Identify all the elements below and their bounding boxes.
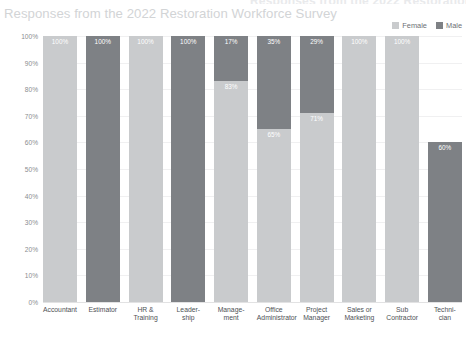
bar-value-label: 83% (214, 83, 248, 90)
x-axis-tick-label: Project Manager (300, 306, 334, 323)
bar-column[interactable]: 100% (342, 36, 376, 302)
bar-value-label: 100% (385, 38, 419, 45)
legend-swatch-icon (392, 22, 399, 29)
bar-segment-female[interactable]: 100% (385, 36, 419, 302)
x-axis-tick-label: Sales or Marketing (342, 306, 376, 323)
bar-value-label: 100% (129, 38, 163, 45)
bar-value-label: 29% (300, 38, 334, 45)
bar-segment-male[interactable]: 100% (171, 36, 205, 302)
x-axis-tick-label: Estimator (86, 306, 120, 323)
bar-segment-male[interactable]: 60% (428, 142, 462, 302)
chart-subtitle: Responses from the 2022 Restoration Work… (4, 6, 337, 21)
bar-segment-male[interactable]: 29% (300, 36, 334, 113)
legend-swatch-icon (436, 22, 443, 29)
y-axis-tick-label: 60% (25, 139, 38, 146)
legend-item-female[interactable]: Female (392, 21, 427, 30)
bar-value-label: 65% (257, 131, 291, 138)
x-axis-tick-label: HR & Training (129, 306, 163, 323)
bar-series-group: 100%100%100%100%17%83%35%65%29%71%100%10… (43, 36, 462, 302)
bar-column[interactable]: 100% (86, 36, 120, 302)
y-axis-tick-label: 30% (25, 219, 38, 226)
legend-item-male[interactable]: Male (436, 21, 462, 30)
y-axis-tick-label: 0% (28, 299, 38, 306)
bar-segment-male[interactable]: 100% (86, 36, 120, 302)
y-axis-tick-label: 50% (25, 166, 38, 173)
bar-segment-female[interactable]: 83% (214, 81, 248, 302)
y-axis-tick-label: 90% (25, 59, 38, 66)
bar-segment-female[interactable]: 100% (129, 36, 163, 302)
y-axis-tick-label: 40% (25, 192, 38, 199)
y-axis-tick-label: 100% (21, 33, 38, 40)
bar-column[interactable]: 35%65% (257, 36, 291, 302)
y-axis-tick-label: 80% (25, 86, 38, 93)
x-axis-labels: AccountantEstimatorHR & TrainingLeader- … (43, 306, 462, 323)
chart-title: Responses from the 2022 Restoration Work… (250, 0, 466, 4)
bar-column[interactable]: 100% (43, 36, 77, 302)
bar-segment-female[interactable]: 65% (257, 129, 291, 302)
bar-value-label: 17% (214, 38, 248, 45)
bar-column[interactable]: 29%71% (300, 36, 334, 302)
x-axis-tick-label: Accountant (43, 306, 77, 323)
bar-segment-female[interactable]: 100% (342, 36, 376, 302)
bar-column[interactable]: 60% (428, 36, 462, 302)
y-axis-tick-label: 70% (25, 112, 38, 119)
bar-value-label: 35% (257, 38, 291, 45)
x-axis-tick-label: Leader- ship (171, 306, 205, 323)
y-axis-tick-label: 20% (25, 245, 38, 252)
bar-column[interactable]: 100% (171, 36, 205, 302)
x-axis-tick-label: Sub Contractor (385, 306, 419, 323)
bar-column[interactable]: 100% (385, 36, 419, 302)
bar-segment-female[interactable]: 100% (43, 36, 77, 302)
x-axis-tick-label: Office Administrator (257, 306, 291, 323)
bar-value-label: 60% (428, 144, 462, 151)
bar-column[interactable]: 17%83% (214, 36, 248, 302)
chart-container: Responses from the 2022 Restoration Work… (0, 0, 466, 341)
y-axis-tick-label: 10% (25, 272, 38, 279)
plot-area: 100%90%80%70%60%50%40%30%20%10%0% 100%10… (43, 36, 462, 302)
bar-segment-female[interactable]: 71% (300, 113, 334, 302)
legend-label: Male (446, 21, 462, 30)
legend-label: Female (402, 21, 427, 30)
gridline: 0% (43, 302, 462, 303)
bar-value-label: 100% (86, 38, 120, 45)
bar-value-label: 71% (300, 115, 334, 122)
bar-segment-male[interactable]: 35% (257, 36, 291, 129)
x-axis-tick-label: Techni- cian (428, 306, 462, 323)
bar-value-label: 100% (43, 38, 77, 45)
bar-value-label: 100% (342, 38, 376, 45)
chart-legend: FemaleMale (392, 21, 462, 30)
bar-column[interactable]: 100% (129, 36, 163, 302)
bar-value-label: 100% (171, 38, 205, 45)
bar-segment-male[interactable]: 17% (214, 36, 248, 81)
x-axis-tick-label: Manage- ment (214, 306, 248, 323)
